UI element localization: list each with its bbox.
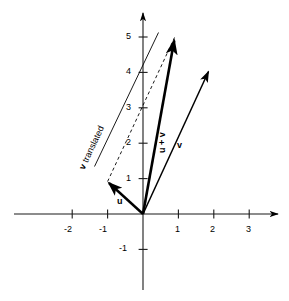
vector-u — [109, 183, 143, 214]
vector-diagram-figure: -2 -1 1 2 3 5 4 3 2 1 -1 u v u + v v tra… — [0, 0, 289, 301]
y-tick-label-1: 1 — [126, 173, 131, 183]
vector-u-plus-v — [143, 41, 174, 215]
x-tick-label--1: -1 — [99, 224, 107, 234]
x-tick-label-3: 3 — [246, 224, 251, 234]
x-tick-label-2: 2 — [210, 224, 215, 234]
y-tick-label-2: 2 — [126, 137, 131, 147]
y-tick-label-4: 4 — [126, 66, 131, 76]
x-tick-label--2: -2 — [64, 224, 72, 234]
x-tick-label-1: 1 — [175, 224, 180, 234]
vector-v — [143, 72, 209, 215]
y-tick-label-5: 5 — [126, 31, 131, 41]
vector-label-u-plus-v: u + v — [157, 132, 167, 153]
vector-label-v: v — [177, 140, 182, 150]
plot-canvas — [0, 0, 289, 301]
vector-label-u: u — [117, 196, 123, 206]
vector-v-translated-dashed — [108, 38, 175, 182]
y-tick-label-3: 3 — [126, 102, 131, 112]
y-tick-label--1: -1 — [119, 243, 127, 253]
